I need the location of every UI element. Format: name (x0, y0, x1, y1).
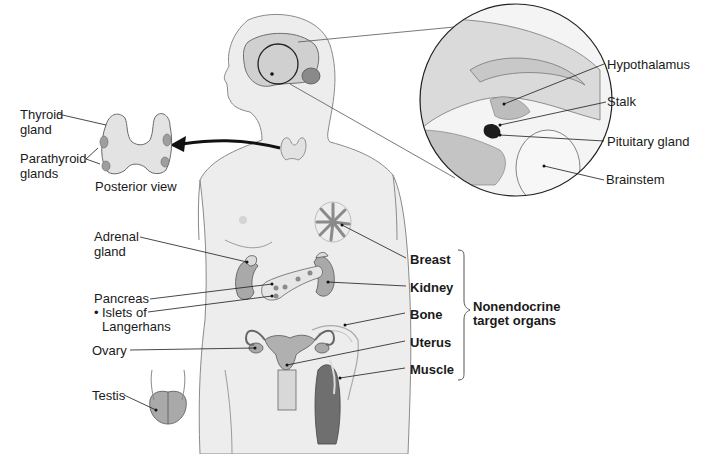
islets-label-line1: Islets of (102, 305, 147, 320)
endocrine-diagram (0, 0, 705, 454)
thyroid-leader (58, 114, 106, 125)
target-breast-label: Breast (410, 252, 450, 267)
thyroid-label-line1: Thyroid (20, 107, 63, 122)
cerebellum (302, 68, 320, 84)
parathyroid-leader-upper (86, 148, 98, 159)
pituitary-gland-label: Pituitary gland (607, 134, 689, 149)
stalk-label: Stalk (607, 94, 636, 109)
parathyroid-leader-lower (86, 159, 100, 164)
pancreas-dot (271, 283, 274, 286)
testis-dot (155, 409, 158, 412)
adrenal-dot (246, 261, 249, 264)
brainstem-dot (543, 165, 546, 168)
muscle-shape (315, 365, 340, 444)
nipple (239, 216, 247, 224)
thyroid-label-line2: gland (20, 122, 52, 137)
target-bone-label: Bone (410, 307, 443, 322)
kidney-dot (327, 281, 330, 284)
bone-dot (344, 324, 347, 327)
muscle-dot (339, 377, 342, 380)
islet (308, 271, 313, 276)
target-organs-brace (458, 250, 470, 380)
target-kidney-label: Kidney (410, 280, 453, 295)
pituitary-dot (499, 134, 502, 137)
islet (274, 286, 279, 291)
stalk-dot (499, 124, 502, 127)
hypothalamus-dot (503, 103, 506, 106)
parathyroid-label-line2: glands (20, 166, 58, 181)
brainstem-shape (516, 130, 580, 206)
adrenal-label-line2: gland (94, 244, 126, 259)
target-uterus-label: Uterus (410, 335, 451, 350)
pancreas-label: Pancreas (94, 291, 149, 306)
cervix (278, 370, 296, 410)
ovary-label: Ovary (92, 343, 127, 358)
testis-label: Testis (92, 388, 125, 403)
breast-gland (315, 202, 351, 242)
posterior-view-caption: Posterior view (95, 179, 177, 194)
uterus-dot (286, 364, 289, 367)
islets-bullet: • (94, 305, 99, 320)
hypothalamus-label: Hypothalamus (607, 57, 690, 72)
parathyroid-label-line1: Parathyroid (20, 151, 86, 166)
islets-dot (271, 295, 274, 298)
parathyroid-upper-right (163, 134, 171, 146)
target-muscle-label: Muscle (410, 362, 454, 377)
nonendocrine-label-line1: Nonendocrine (473, 299, 560, 314)
thyroid-large (102, 114, 172, 174)
islets-label-line2: Langerhans (102, 319, 171, 334)
ovary-dot (254, 347, 257, 350)
testis (150, 370, 187, 424)
adrenal-label-line1: Adrenal (94, 229, 139, 244)
arm-left-outline (198, 180, 200, 240)
islet (283, 285, 288, 290)
parathyroid-lower-left (102, 161, 110, 171)
breast-dot (341, 224, 344, 227)
parathyroid-lower-right (161, 157, 169, 167)
nonendocrine-label-line2: target organs (473, 313, 556, 328)
pituitary-small (270, 72, 274, 76)
islet (274, 294, 279, 299)
brainstem-label: Brainstem (606, 172, 665, 187)
parathyroid-upper-left (100, 136, 108, 148)
thyroid-arrowhead-icon (170, 136, 186, 152)
islet (296, 277, 301, 282)
